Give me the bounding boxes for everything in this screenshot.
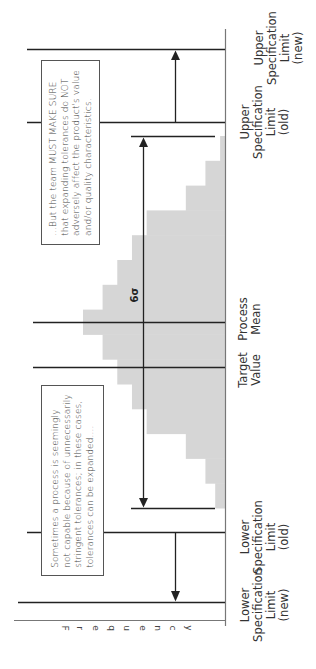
- histogram-bar: [103, 285, 225, 310]
- histogram-bar: [147, 409, 225, 434]
- label-usl-new: Upper Specification Limit (new): [253, 11, 305, 85]
- label-line: (new): [278, 568, 291, 642]
- six-sigma-arrowhead-bottom: [139, 498, 148, 508]
- histogram-bar: [220, 136, 225, 161]
- label-line: (old): [278, 85, 291, 159]
- histogram-bar: [205, 458, 225, 483]
- label-lsl-old: Lower Specification Limit (old): [239, 500, 291, 574]
- frequency-letter: e: [91, 625, 101, 631]
- histogram-bar: [205, 161, 225, 186]
- lsl-expansion-arrowhead: [171, 591, 180, 602]
- callout-upper-line: ...But the team MUST MAKE SURE: [48, 70, 60, 236]
- label-process-mean: Process Mean: [237, 297, 263, 341]
- frequency-letter: r: [74, 626, 84, 630]
- callout-lower-line: not capable because of unnecessarily: [61, 394, 73, 568]
- callout-lower-line: stringent tolerances; in these cases,: [73, 394, 85, 568]
- callout-lower: Sometimes a process is seemingly not cap…: [41, 385, 104, 576]
- histogram-bar: [117, 359, 225, 384]
- callout-lower-line: Sometimes a process is seemingly: [50, 394, 62, 568]
- histogram-bar: [103, 334, 225, 359]
- label-target-value: Target Value: [237, 352, 263, 388]
- frequency-letter: c: [168, 626, 178, 631]
- label-line: Value: [250, 352, 263, 388]
- label-line: (new): [292, 11, 305, 85]
- label-line: Mean: [250, 297, 263, 341]
- label-lsl-new: Lower Specification Limit (new): [239, 568, 291, 642]
- histogram-bar: [186, 434, 225, 459]
- frequency-letter: u: [122, 625, 132, 631]
- frequency-letter: q: [107, 625, 117, 631]
- callout-upper-text: ...But the team MUST MAKE SURE that expa…: [48, 70, 94, 236]
- callout-lower-text: Sometimes a process is seemingly not cap…: [50, 394, 96, 568]
- histogram-bar: [117, 260, 225, 285]
- frequency-letter: e: [138, 625, 148, 631]
- frequency-letter: n: [153, 625, 163, 631]
- label-line: (old): [278, 500, 291, 574]
- histogram-bar: [186, 186, 225, 211]
- callout-upper: ...But the team MUST MAKE SURE that expa…: [41, 60, 100, 245]
- histogram-bar: [132, 384, 225, 409]
- six-sigma-label: 6σ: [129, 287, 140, 302]
- callout-upper-line: adversely affect the product's value: [71, 70, 83, 236]
- callout-upper-line: that expanding tolerances do NOT: [59, 70, 71, 236]
- callout-upper-line: and/or quality characteristics.: [82, 70, 94, 236]
- histogram-bar: [132, 235, 225, 260]
- histogram-bar: [215, 483, 225, 508]
- label-usl-old: Upper Specification Limit (old): [239, 85, 291, 159]
- frequency-letter: F: [60, 625, 70, 630]
- histogram-bar: [147, 210, 225, 235]
- six-sigma-arrowhead-top: [139, 138, 148, 148]
- frequency-letter: y: [184, 625, 194, 630]
- callout-lower-line: tolerances can be expanded....: [84, 394, 96, 568]
- frequency-axis-label: Frequency: [62, 623, 202, 639]
- usl-expansion-arrowhead: [171, 51, 180, 61]
